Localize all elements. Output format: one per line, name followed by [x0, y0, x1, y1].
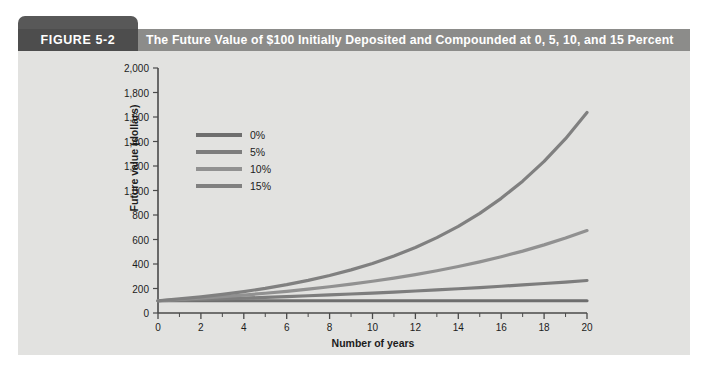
figure-panel-body [18, 30, 690, 355]
figure-number-chip: FIGURE 5-2 [18, 29, 138, 51]
figure-container: FIGURE 5-2 The Future Value of $100 Init… [0, 0, 704, 372]
figure-title-text: The Future Value of $100 Initially Depos… [146, 29, 674, 51]
